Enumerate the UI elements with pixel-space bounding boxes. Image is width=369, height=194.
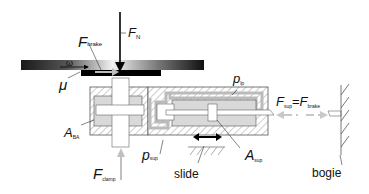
brake-pad (81, 70, 161, 76)
label-plp: plp (232, 71, 244, 86)
bogie-leader (340, 155, 342, 165)
mu-leader (68, 72, 80, 78)
label-aba: ABA (63, 125, 80, 140)
bogie-wall (341, 84, 349, 155)
clamp-force-arrowhead (117, 148, 125, 157)
label-fn: FN (128, 25, 140, 40)
slide-ground (188, 147, 225, 155)
slide-leader (198, 146, 204, 163)
psup-leader (160, 140, 163, 154)
support-force-arrows (276, 111, 328, 119)
label-fsup-eq-fbrake: Fsup=Fbrake (276, 94, 320, 109)
label-psup: psup (141, 147, 158, 163)
label-fclamp: Fclamp (93, 165, 116, 182)
support-piston (208, 104, 217, 121)
label-mu: μ (58, 76, 67, 93)
brake-diagram: FN Fbrake ω μ plp ABA psup Fclamp slide … (0, 0, 369, 194)
bogie-connector (328, 111, 341, 116)
label-slide: slide (174, 167, 199, 181)
clamp-piston-plate (96, 105, 144, 115)
label-bogie: bogie (312, 166, 342, 180)
label-omega: ω (66, 58, 73, 68)
support-rod (166, 110, 274, 115)
label-asup: Asup (244, 147, 263, 163)
